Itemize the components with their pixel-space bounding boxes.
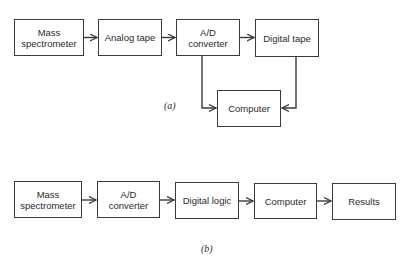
node-b-results: Results — [332, 183, 396, 220]
node-b-computer: Computer — [254, 183, 317, 219]
caption-a: (a) — [164, 100, 176, 111]
node-b-ad-converter: A/D converter — [97, 181, 160, 218]
node-b-digital-logic: Digital logic — [175, 182, 239, 219]
node-a-mass-spectrometer: Mass spectrometer — [14, 19, 84, 56]
caption-b: (b) — [201, 243, 213, 254]
node-b-mass-spectrometer: Mass spectrometer — [14, 181, 82, 218]
arrow-a-ad-to-computer — [202, 56, 216, 108]
node-a-computer: Computer — [217, 90, 281, 127]
node-a-analog-tape: Analog tape — [98, 19, 162, 56]
node-a-digital-tape: Digital tape — [255, 19, 319, 57]
node-a-ad-converter: A/D converter — [176, 19, 240, 56]
arrow-a-digitaltape-to-computer — [282, 57, 296, 108]
